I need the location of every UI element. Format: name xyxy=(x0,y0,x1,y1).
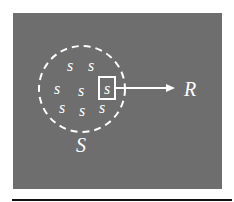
set-element-label: s xyxy=(78,82,84,99)
set-mapping-diagram: s s s s s s s s S R xyxy=(0,0,234,202)
set-element-label: s xyxy=(79,102,85,119)
target-label: R xyxy=(183,78,196,100)
set-label: S xyxy=(76,134,86,156)
set-element-label: s xyxy=(99,99,105,116)
set-element-label: s xyxy=(67,57,73,74)
selected-set-element-label: s xyxy=(104,80,110,97)
set-element-label: s xyxy=(88,57,94,74)
set-element-label: s xyxy=(59,99,65,116)
set-element-label: s xyxy=(54,80,60,97)
diagram-background-panel xyxy=(13,13,222,189)
